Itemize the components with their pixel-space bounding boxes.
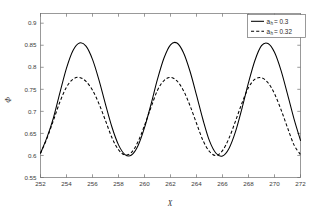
x-tick-label: 268 bbox=[243, 180, 254, 187]
chart-figure: 0.550.60.650.70.750.80.850.9 25225425625… bbox=[0, 0, 318, 219]
y-tick-label: 0.65 bbox=[24, 130, 37, 137]
x-tick-label: 256 bbox=[87, 180, 98, 187]
x-axis-title: X bbox=[167, 199, 173, 208]
x-tick-label: 252 bbox=[35, 180, 46, 187]
x-tick-label: 266 bbox=[217, 180, 228, 187]
x-tick-label: 270 bbox=[269, 180, 280, 187]
y-tick-label: 0.7 bbox=[28, 108, 37, 115]
x-tick-label: 254 bbox=[61, 180, 72, 187]
y-tick-label: 0.8 bbox=[28, 63, 37, 70]
x-tick-label: 258 bbox=[113, 180, 124, 187]
legend-label-dashed-value: = 0.32 bbox=[274, 28, 292, 35]
y-axis-title: Φ bbox=[4, 97, 13, 103]
x-tick-label: 272 bbox=[295, 180, 306, 187]
y-tick-label: 0.9 bbox=[28, 19, 37, 26]
x-tick-label: 262 bbox=[165, 180, 176, 187]
legend-label-solid-value: = 0.3 bbox=[274, 18, 289, 25]
legend: a h = 0.3 a h = 0.32 bbox=[248, 15, 306, 38]
y-tick-label: 0.75 bbox=[24, 86, 37, 93]
y-tick-label: 0.85 bbox=[24, 41, 37, 48]
y-tick-label: 0.6 bbox=[28, 152, 37, 159]
x-tick-label: 260 bbox=[139, 180, 150, 187]
x-tick-label: 264 bbox=[191, 180, 202, 187]
line-chart: 0.550.60.650.70.750.80.850.9 25225425625… bbox=[0, 0, 318, 219]
